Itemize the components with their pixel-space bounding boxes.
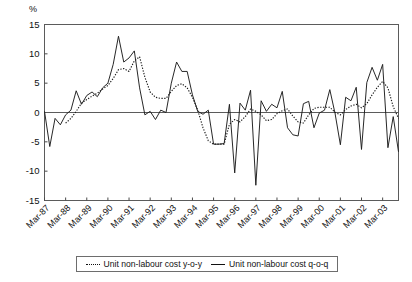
y-tick-label: 10	[29, 48, 40, 59]
y-tick-label: -10	[26, 165, 40, 176]
y-axis-tick-labels: 151050-5-10-15	[26, 19, 40, 206]
chart-container: % 151050-5-10-15 Mar-87Mar-88Mar-89Mar-9…	[0, 0, 412, 282]
line-chart-plot: 151050-5-10-15 Mar-87Mar-88Mar-89Mar-90M…	[0, 0, 412, 282]
x-tick-label: Mar-03	[362, 203, 389, 230]
x-axis-tick-labels: Mar-87Mar-88Mar-89Mar-90Mar-91Mar-92Mar-…	[24, 203, 389, 230]
y-tick-label: 15	[29, 19, 40, 30]
data-series-group	[45, 36, 399, 185]
y-tick-label: 5	[34, 77, 39, 88]
dotted-line-swatch-icon	[86, 261, 100, 268]
series-line-qoq	[45, 36, 399, 185]
legend-entry-qoq: Unit non-labour cost q-o-q	[211, 259, 328, 269]
legend-label-qoq: Unit non-labour cost q-o-q	[229, 259, 328, 269]
y-tick-label: -15	[26, 195, 40, 206]
series-line-yoy	[66, 57, 399, 144]
solid-line-swatch-icon	[211, 261, 225, 268]
y-tick-label: -5	[31, 136, 39, 147]
legend-entry-yoy: Unit non-labour cost y-o-y	[86, 259, 202, 269]
chart-legend: Unit non-labour cost y-o-y Unit non-labo…	[76, 256, 338, 272]
legend-label-yoy: Unit non-labour cost y-o-y	[104, 259, 202, 269]
y-tick-label: 0	[34, 107, 39, 118]
